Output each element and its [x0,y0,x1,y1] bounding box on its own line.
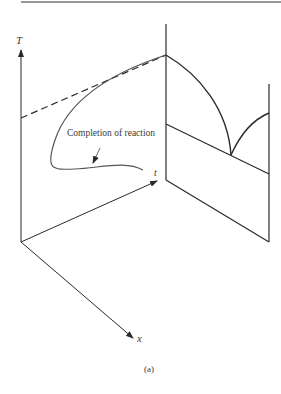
panel-bottom-edge [166,180,269,242]
T-axis-label: T [16,34,23,46]
panel-mid-line [166,124,269,174]
x-axis [21,242,133,338]
t-axis [21,181,157,242]
annotation-label: Completion of reaction [67,128,155,138]
figure-caption: (a) [144,364,154,374]
t-axis-label: t [154,167,157,178]
panel-right-curve [231,113,269,155]
x-axis-label: x [136,332,142,344]
dashed-tangent-line [21,55,166,118]
diagram-canvas: T t x Completion of reaction (a) [0,0,281,394]
annotation-arrow [93,148,100,163]
reaction-curve [51,55,166,170]
